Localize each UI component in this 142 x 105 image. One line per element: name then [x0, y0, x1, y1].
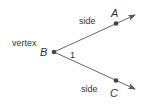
point-a: [114, 21, 119, 26]
side-top-label: side: [79, 16, 96, 26]
point-b-label: B: [40, 46, 47, 58]
angle-diagram: vertex B 1 side side A C: [0, 0, 142, 105]
angle-number-label: 1: [70, 50, 75, 60]
vertex-label: vertex: [12, 38, 37, 48]
point-a-label: A: [110, 7, 118, 19]
point-c: [114, 78, 119, 83]
point-b: [52, 50, 57, 55]
point-c-label: C: [110, 87, 118, 99]
side-bottom-label: side: [81, 84, 98, 94]
